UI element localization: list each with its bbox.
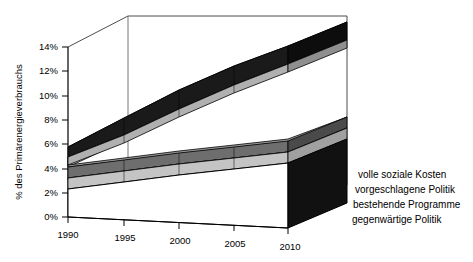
y-axis: 14% 12% 10% 8% 6% 4% 2% 0% % des Primäre… bbox=[13, 41, 68, 222]
x-tick-label-1990: 1990 bbox=[57, 229, 78, 240]
x-tick-label-2000: 2000 bbox=[169, 235, 190, 246]
legend-item-bestehende-programme[interactable]: bestehende Programme bbox=[353, 199, 461, 210]
y-axis-label: % des Primärenergieverbrauchs bbox=[13, 64, 24, 200]
x-tick-label-2005: 2005 bbox=[224, 238, 245, 249]
y-tick-label-6: 6% bbox=[44, 138, 58, 149]
depth-edge-top-left bbox=[68, 16, 128, 47]
x-tick-label-2010: 2010 bbox=[279, 241, 300, 252]
y-tick-label-10: 10% bbox=[39, 90, 59, 101]
stacked-area-3d-chart: 14% 12% 10% 8% 6% 4% 2% 0% % des Primäre… bbox=[0, 0, 473, 262]
y-tick-label-8: 8% bbox=[44, 114, 58, 125]
volle-soziale-kosten-front-face bbox=[68, 46, 288, 157]
legend-item-volle-soziale-kosten[interactable]: volle soziale Kosten bbox=[358, 169, 446, 180]
y-tick-label-2: 2% bbox=[44, 187, 58, 198]
y-tick-label-4: 4% bbox=[44, 163, 58, 174]
y-tick-label-0: 0% bbox=[44, 211, 58, 222]
x-tick-label-1995: 1995 bbox=[114, 232, 135, 243]
legend-item-vorgeschlagene-politik[interactable]: vorgeschlagene Politik bbox=[355, 184, 456, 195]
y-tick-label-14: 14% bbox=[39, 41, 59, 52]
legend: volle soziale Kosten vorgeschlagene Poli… bbox=[352, 169, 461, 225]
chart-root: 14% 12% 10% 8% 6% 4% 2% 0% % des Primäre… bbox=[0, 0, 473, 262]
y-tick-label-12: 12% bbox=[39, 65, 59, 76]
legend-item-gegenwaertige-politik[interactable]: gegenwärtige Politik bbox=[352, 214, 442, 225]
